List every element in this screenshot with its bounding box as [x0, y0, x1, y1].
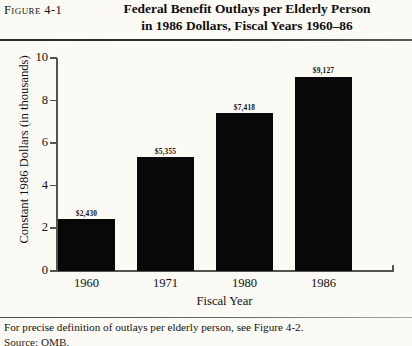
header-divider [0, 39, 412, 41]
figure-header: Figure 4-1 Federal Benefit Outlays per E… [0, 0, 412, 40]
bar-1986 [295, 77, 352, 271]
x-tick-label-1986: 1986 [281, 276, 366, 291]
bar-1960 [58, 219, 115, 271]
figure-source-note: Source: OMB. [4, 336, 69, 346]
bar-value-1980: $7,418 [202, 103, 287, 112]
figure-footnote: For precise definition of outlays per el… [4, 321, 304, 334]
figure-title-line-1: Federal Benefit Outlays per Elderly Pers… [123, 1, 370, 16]
figure-page: Figure 4-1 Federal Benefit Outlays per E… [0, 0, 412, 346]
figure-title-line-2: in 1986 Dollars, Fiscal Years 1960–86 [86, 18, 408, 35]
figure-number: Figure 4-1 [4, 3, 62, 18]
y-tick-label-4: 4 [8, 179, 48, 192]
x-tick-label-1971: 1971 [123, 276, 208, 291]
bar-value-1960: $2,430 [44, 209, 129, 218]
bar-value-1986: $9,127 [281, 66, 366, 75]
x-tick-label-1980: 1980 [202, 276, 287, 291]
bar-1980 [216, 113, 273, 271]
y-tick-label-8: 8 [8, 94, 48, 107]
y-tick-label-0: 0 [8, 264, 48, 277]
y-tick-label-10: 10 [8, 51, 48, 64]
footer-divider [0, 317, 412, 318]
figure-title: Federal Benefit Outlays per Elderly Pers… [86, 1, 408, 34]
bar-1971 [137, 157, 194, 271]
x-axis-label: Fiscal Year [56, 294, 393, 309]
bar-chart: Constant 1986 Dollars (in thousands) 0 2… [0, 44, 412, 296]
x-tick-label-1960: 1960 [44, 276, 129, 291]
bar-value-1971: $5,355 [123, 147, 208, 156]
bar-series: $2,430 $5,355 $7,418 $9,127 [56, 58, 393, 271]
y-tick-label-6: 6 [8, 136, 48, 149]
y-tick-label-2: 2 [8, 221, 48, 234]
